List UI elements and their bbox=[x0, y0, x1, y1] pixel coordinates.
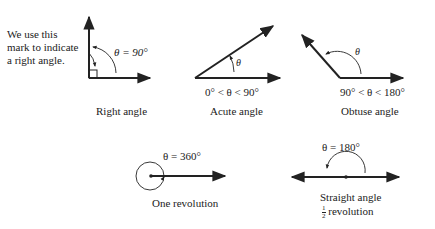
obtuse-angle-theta-label: θ bbox=[355, 46, 360, 58]
revolution-caption: One revolution bbox=[152, 197, 218, 209]
right-angle-caption: Right angle bbox=[96, 105, 147, 117]
acute-angle-range: 0° < θ < 90° bbox=[205, 86, 259, 98]
right-angle-mark-note: We use this mark to indicate a right ang… bbox=[7, 28, 78, 67]
acute-angle-caption: Acute angle bbox=[210, 105, 263, 117]
note-line: mark to indicate bbox=[7, 41, 78, 54]
straight-angle-subcaption: 1 2 revolution bbox=[322, 205, 373, 220]
straight-angle-diagram bbox=[292, 151, 399, 178]
straight-angle-caption: Straight angle bbox=[320, 191, 381, 203]
acute-angle-theta-label: θ bbox=[236, 57, 241, 69]
right-angle-theta-label: θ = 90° bbox=[114, 46, 148, 58]
revolution-diagram bbox=[136, 162, 225, 190]
obtuse-angle-range: 90° < θ < 180° bbox=[340, 86, 405, 98]
straight-angle-theta-label: θ = 180° bbox=[322, 141, 360, 153]
note-line: a right angle. bbox=[7, 54, 78, 67]
acute-angle-diagram bbox=[195, 26, 280, 78]
fraction-denominator: 2 bbox=[322, 213, 326, 220]
obtuse-angle-caption: Obtuse angle bbox=[341, 105, 399, 117]
half-fraction: 1 2 bbox=[322, 205, 326, 220]
subcaption-text: revolution bbox=[328, 205, 373, 217]
obtuse-angle-diagram bbox=[302, 35, 403, 78]
angle-types-figure: We use this mark to indicate a right ang… bbox=[0, 0, 435, 229]
note-line: We use this bbox=[7, 28, 78, 41]
revolution-theta-label: θ = 360° bbox=[163, 150, 201, 162]
